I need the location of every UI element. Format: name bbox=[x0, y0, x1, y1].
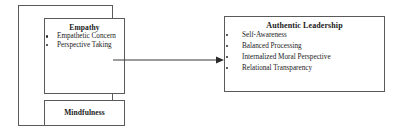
list-item: Perspective Taking bbox=[45, 41, 124, 50]
list-item: Relational Transparency bbox=[225, 64, 384, 73]
arrowhead-icon bbox=[216, 56, 224, 63]
list-item: Internalized Moral Perspective bbox=[225, 53, 384, 62]
bullet-icon bbox=[226, 56, 228, 58]
authentic-leadership-dimension-label: Self-Awareness bbox=[242, 31, 287, 39]
predictor-group-box: Empathy Empathetic Concern Perspective T… bbox=[18, 5, 113, 126]
list-item: Balanced Processing bbox=[225, 42, 384, 51]
construct-box-mindfulness: Mindfulness bbox=[44, 100, 125, 126]
authentic-leadership-dimension-label: Balanced Processing bbox=[242, 42, 302, 50]
authentic-leadership-dimension-label: Relational Transparency bbox=[242, 64, 312, 72]
arrow-to-authentic-leadership bbox=[110, 50, 230, 72]
mindfulness-title: Mindfulness bbox=[45, 109, 124, 117]
bullet-icon bbox=[226, 34, 228, 36]
bullet-icon bbox=[46, 44, 48, 46]
authentic-leadership-dimension-label: Internalized Moral Perspective bbox=[242, 53, 331, 61]
empathy-title: Empathy bbox=[45, 24, 124, 32]
bullet-icon bbox=[226, 45, 228, 47]
authentic-leadership-title: Authentic Leadership bbox=[225, 22, 384, 31]
empathy-dimension-label: Empathetic Concern bbox=[57, 32, 116, 40]
empathy-dimension-label: Perspective Taking bbox=[57, 41, 112, 49]
list-item: Self-Awareness bbox=[225, 31, 384, 40]
list-item: Empathetic Concern bbox=[45, 32, 124, 41]
conceptual-model-diagram: Empathy Empathetic Concern Perspective T… bbox=[0, 0, 405, 134]
bullet-icon bbox=[46, 35, 48, 37]
authentic-leadership-dimension-list: Self-Awareness Balanced Processing Inter… bbox=[225, 31, 384, 73]
bullet-icon bbox=[226, 67, 228, 69]
construct-box-authentic-leadership: Authentic Leadership Self-Awareness Bala… bbox=[224, 16, 385, 92]
empathy-dimension-list: Empathetic Concern Perspective Taking bbox=[45, 32, 124, 50]
